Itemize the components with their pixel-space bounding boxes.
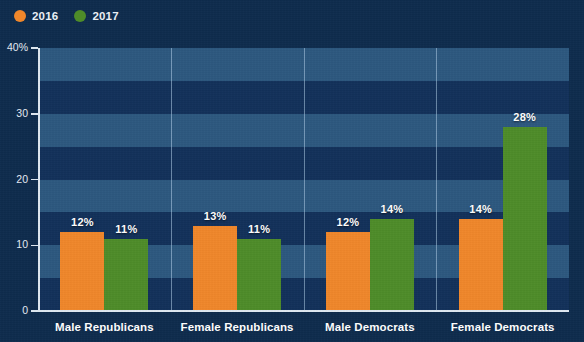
legend-item-2017: 2017 bbox=[74, 10, 118, 22]
bar-value-label: 28% bbox=[513, 111, 536, 123]
category-label: Male Republicans bbox=[38, 316, 171, 342]
bar-value-label: 11% bbox=[248, 223, 270, 235]
bar-value-label: 12% bbox=[337, 216, 360, 228]
bar-2017-female-republicans[interactable]: 11% bbox=[237, 48, 281, 311]
bar-group: 14%28% bbox=[436, 48, 569, 311]
bar-2016-male-democrats[interactable]: 12% bbox=[326, 48, 370, 311]
plot-area: 12%11%13%11%12%14%14%28% bbox=[38, 48, 569, 311]
circle-marker-icon bbox=[74, 10, 86, 22]
y-axis-tick-label: 40% bbox=[0, 41, 28, 53]
y-axis-tick-label: 0 bbox=[0, 304, 28, 316]
chart-container: 2016 2017 12%11%13%11%12%14%14%28% 01020… bbox=[0, 0, 584, 342]
y-axis-tick bbox=[31, 113, 38, 115]
bar-rect[interactable] bbox=[237, 239, 281, 311]
circle-marker-icon bbox=[14, 10, 26, 22]
bar-value-label: 14% bbox=[381, 203, 404, 215]
bar-rect[interactable] bbox=[459, 219, 503, 311]
legend-label-2016: 2016 bbox=[32, 10, 58, 22]
bar-2016-female-democrats[interactable]: 14% bbox=[459, 48, 503, 311]
legend-item-2016: 2016 bbox=[14, 10, 58, 22]
bar-rect[interactable] bbox=[193, 226, 237, 311]
bar-value-label: 12% bbox=[71, 216, 94, 228]
x-axis-line bbox=[38, 310, 569, 312]
bar-group: 13%11% bbox=[171, 48, 304, 311]
bar-group: 12%11% bbox=[38, 48, 171, 311]
x-axis-category-labels: Male RepublicansFemale RepublicansMale D… bbox=[38, 316, 569, 342]
y-axis-tick bbox=[31, 47, 38, 49]
bar-groups: 12%11%13%11%12%14%14%28% bbox=[38, 48, 569, 311]
y-axis-tick-label: 10 bbox=[0, 238, 28, 250]
bar-rect[interactable] bbox=[370, 219, 414, 311]
y-axis-tick bbox=[31, 179, 38, 181]
y-axis-labels: 010203040% bbox=[0, 0, 38, 342]
bar-group: 12%14% bbox=[304, 48, 437, 311]
bar-value-label: 14% bbox=[469, 203, 492, 215]
category-label: Male Democrats bbox=[304, 316, 437, 342]
y-axis-tick-label: 20 bbox=[0, 173, 28, 185]
legend-label-2017: 2017 bbox=[92, 10, 118, 22]
y-axis-tick-label: 30 bbox=[0, 107, 28, 119]
chart-legend: 2016 2017 bbox=[14, 10, 119, 22]
bar-2016-male-republicans[interactable]: 12% bbox=[60, 48, 104, 311]
y-axis-tick bbox=[31, 245, 38, 247]
bar-2017-male-republicans[interactable]: 11% bbox=[104, 48, 148, 311]
y-axis-line bbox=[38, 48, 40, 311]
bar-2016-female-republicans[interactable]: 13% bbox=[193, 48, 237, 311]
bar-value-label: 13% bbox=[204, 210, 227, 222]
category-label: Female Republicans bbox=[171, 316, 304, 342]
y-axis-tick bbox=[31, 310, 38, 312]
bar-rect[interactable] bbox=[60, 232, 104, 311]
bar-2017-female-democrats[interactable]: 28% bbox=[503, 48, 547, 311]
bar-value-label: 11% bbox=[115, 223, 137, 235]
category-label: Female Democrats bbox=[436, 316, 569, 342]
bar-rect[interactable] bbox=[104, 239, 148, 311]
bar-rect[interactable] bbox=[326, 232, 370, 311]
bar-2017-male-democrats[interactable]: 14% bbox=[370, 48, 414, 311]
bar-rect[interactable] bbox=[503, 127, 547, 311]
